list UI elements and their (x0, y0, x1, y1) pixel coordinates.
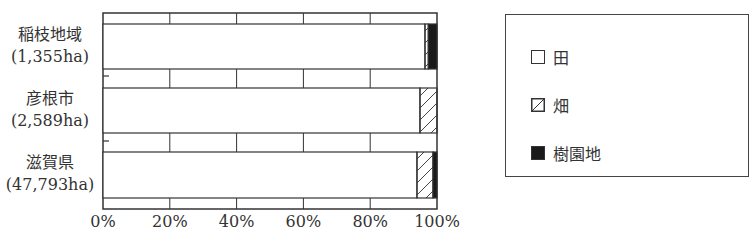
legend-label: 田 (553, 45, 569, 69)
bar-segment-hatch (420, 88, 437, 133)
category-area: (1,355ha) (0, 46, 100, 68)
x-tick-label: 60% (286, 212, 322, 231)
bar-segment-solid (428, 24, 437, 69)
category-area: (47,793ha) (0, 174, 100, 196)
category-label: 滋賀県(47,793ha) (0, 152, 100, 196)
category-label: 彦根市(2,589ha) (0, 88, 100, 132)
legend-swatch-solid (531, 146, 545, 160)
bar-segment-blank (103, 152, 417, 198)
category-name: 稲枝地域 (0, 24, 100, 46)
legend-swatch-hatch (531, 98, 545, 112)
bar-segment-solid (433, 152, 437, 198)
bar-segment-hatch (417, 152, 433, 198)
bar-segment-blank (103, 88, 420, 133)
category-name: 滋賀県 (0, 152, 100, 174)
legend-item-orchard: 樹園地 (531, 141, 601, 165)
x-tick-label: 40% (219, 212, 255, 231)
x-tick-label: 80% (352, 212, 388, 231)
x-tick-label: 0% (90, 212, 115, 231)
category-area: (2,589ha) (0, 110, 100, 132)
legend-label: 樹園地 (553, 141, 601, 165)
category-label: 稲枝地域(1,355ha) (0, 24, 100, 68)
bar-segment-blank (103, 24, 425, 69)
category-name: 彦根市 (0, 88, 100, 110)
legend-item-paddy: 田 (531, 45, 569, 69)
x-tick-label: 20% (152, 212, 188, 231)
x-tick-label: 100% (414, 212, 460, 231)
legend-swatch-blank (531, 50, 545, 64)
legend-label: 畑 (553, 93, 569, 117)
legend-item-field: 畑 (531, 93, 569, 117)
legend: 田 畑 樹園地 (505, 14, 749, 177)
